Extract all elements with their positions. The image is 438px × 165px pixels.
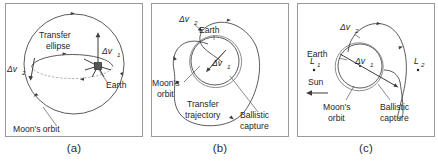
transfer-ellipse-label-line2: ellipse xyxy=(46,41,71,51)
earth-symbol xyxy=(84,59,111,77)
orbit-direction-tick-top xyxy=(71,12,75,15)
delta-v2-label: Δv xyxy=(339,22,351,32)
earth-label: Earth xyxy=(307,49,328,59)
orbit-direction-tick-right xyxy=(120,72,123,77)
delta-v2-sub: 2 xyxy=(193,19,198,26)
trajectory-tick-bottom xyxy=(229,116,234,120)
panel-c: L 1 L 2 Δv 2 Earth xyxy=(296,3,436,155)
sun-label: Sun xyxy=(308,77,324,87)
delta-v2-sub: 2 xyxy=(354,27,359,34)
moons-orbit-label-line1: Moon's xyxy=(152,78,179,88)
delta-v1-label: Δv xyxy=(101,46,113,56)
l2-sub: 2 xyxy=(420,61,425,68)
moons-orbit-circle-inner xyxy=(335,43,383,91)
transfer-ellipse-label-line1: Transfer xyxy=(39,30,71,40)
l2-dot xyxy=(417,69,419,71)
earth-leader-line xyxy=(339,58,347,60)
moons-orbit-label: Moon's orbit xyxy=(13,124,60,134)
panel-c-diagram: L 1 L 2 Δv 2 Earth xyxy=(298,4,434,136)
panel-c-frame: L 1 L 2 Δv 2 Earth xyxy=(297,3,435,137)
delta-v2-leader-line xyxy=(354,34,360,38)
delta-v2-sub: 2 xyxy=(21,69,26,76)
transfer-trajectory-label-line1: Transfer xyxy=(187,99,219,109)
arc-tick-top xyxy=(376,22,381,25)
ballistic-capture-label-line1: Ballistic xyxy=(240,110,270,120)
moons-orbit-circle xyxy=(24,14,124,114)
delta-v1-sub: 1 xyxy=(370,61,373,68)
ballistic-capture-leader-line xyxy=(378,84,390,100)
panel-b: Δv 2 Earth Δv 1 Moon's orbit Transfer tr… xyxy=(150,3,290,155)
panel-b-caption: (b) xyxy=(213,143,228,155)
lagrange-point-l2: L 2 xyxy=(414,56,425,71)
delta-v1-label: Δv xyxy=(354,56,366,66)
panel-a-caption: (a) xyxy=(67,143,82,155)
transfer-trajectory-label-line2: trajectory xyxy=(185,110,221,120)
delta-v1-label: Δv xyxy=(211,58,223,68)
moons-orbit-label-line1: Moon's xyxy=(323,102,350,112)
panel-a: Transfer ellipse Δv 1 Δv 2 Earth Moon's … xyxy=(4,3,144,155)
moons-orbit-label-line2: orbit xyxy=(157,89,174,99)
ballistic-capture-label-line1: Ballistic xyxy=(380,102,410,112)
l1-sub: 1 xyxy=(317,61,320,68)
panel-c-caption: (c) xyxy=(359,143,373,155)
earth-label: Earth xyxy=(199,25,220,35)
l2-label: L xyxy=(414,56,419,66)
trajectory-tick-top xyxy=(227,19,231,22)
panel-a-frame: Transfer ellipse Δv 1 Δv 2 Earth Moon's … xyxy=(5,3,143,137)
sun-direction-arrow xyxy=(306,90,328,96)
moons-orbit-label-line2: orbit xyxy=(328,113,345,123)
delta-v2-label: Δv xyxy=(6,64,18,74)
figure-container: Transfer ellipse Δv 1 Δv 2 Earth Moon's … xyxy=(0,0,438,165)
trajectory-tick-left xyxy=(173,56,177,61)
sun-earth-line-arrow xyxy=(393,83,398,87)
panel-b-frame: Δv 2 Earth Δv 1 Moon's orbit Transfer tr… xyxy=(151,3,289,137)
delta-v2-arrow xyxy=(28,58,34,81)
delta-v2-label: Δv xyxy=(178,14,190,24)
delta-v1-sub: 1 xyxy=(117,51,120,58)
panel-a-diagram: Transfer ellipse Δv 1 Δv 2 Earth Moon's … xyxy=(6,4,142,136)
arc-tick-right xyxy=(399,46,403,49)
ballistic-capture-label-line2: capture xyxy=(380,113,409,123)
earth-label: Earth xyxy=(106,80,127,90)
moons-orbit-leader-line xyxy=(346,86,354,100)
l1-dot xyxy=(313,69,315,71)
ballistic-capture-label-line2: capture xyxy=(240,121,269,131)
delta-v1-sub: 1 xyxy=(227,63,230,70)
panel-b-diagram: Δv 2 Earth Δv 1 Moon's orbit Transfer tr… xyxy=(152,4,288,136)
